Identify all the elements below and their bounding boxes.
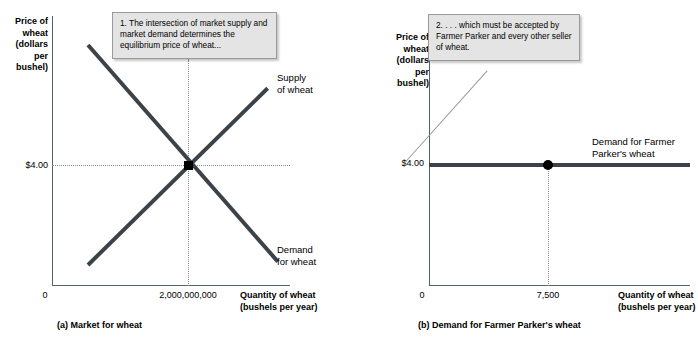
x-tick-label-panel-b: 7,500 [518, 290, 578, 301]
origin-label-panel-a: 0 [38, 290, 52, 301]
callout-box-panel-b: 2. . . . which must be accepted by Farme… [428, 14, 580, 61]
demand-curve-panel-a [86, 44, 279, 263]
x-axis-title-panel-a: Quantity of wheat (bushels per year) [240, 290, 352, 313]
y-axis-line-panel-a [52, 16, 53, 285]
y-tick-label-panel-b: $4.00 [379, 158, 424, 169]
y-axis-line-panel-b [429, 32, 430, 285]
supply-curve-panel-a [87, 87, 270, 267]
demand-line-panel-b [429, 163, 690, 167]
callout-box-panel-a: 1. The intersection of market supply and… [112, 12, 277, 59]
demand-curve-label: Demand for wheat [277, 244, 316, 267]
demand-line-label-panel-b: Demand for Farmer Parker's wheat [592, 136, 675, 159]
y-axis-title-panel-a: Price of wheat (dollars per bushel) [8, 16, 48, 74]
x-axis-title-panel-b: Quantity of wheat (bushels per year) [618, 290, 698, 313]
quantity-marker-panel-b [543, 160, 553, 170]
x-axis-line-panel-b [429, 285, 690, 286]
supply-curve-label: Supply of wheat [277, 72, 313, 95]
x-tick-label-panel-a: 2,000,000,000 [128, 290, 248, 301]
equilibrium-marker-panel-a [184, 161, 193, 170]
origin-label-panel-b: 0 [415, 290, 429, 301]
panel-caption-a: (a) Market for wheat [57, 320, 142, 330]
panel-demand-farmer-parker: Price of wheat (dollars per bushel) Dema… [360, 0, 698, 351]
y-tick-label-panel-a: $4.00 [8, 160, 48, 171]
x-axis-line-panel-a [52, 285, 290, 286]
quantity-guideline-panel-a [188, 60, 189, 286]
price-guideline-panel-a [52, 165, 290, 166]
panel-market-for-wheat: Price of wheat (dollars per bushel) Supp… [0, 0, 360, 351]
y-axis-title-panel-b: Price of wheat (dollars per bushel) [369, 32, 429, 90]
panel-caption-b: (b) Demand for Farmer Parker's wheat [418, 320, 581, 330]
quantity-guideline-panel-b [548, 167, 549, 286]
